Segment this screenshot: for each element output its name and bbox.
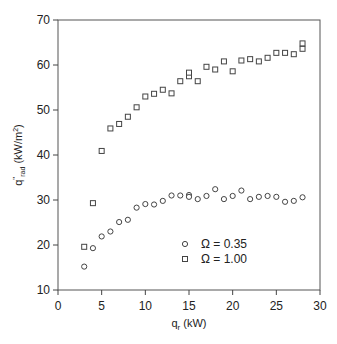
point-omega-100 — [99, 148, 104, 153]
legend-circle-marker — [182, 241, 187, 246]
point-omega-100 — [300, 46, 305, 51]
legend-label-omega-100: Ω = 1.00 — [201, 252, 247, 266]
point-omega-035 — [125, 217, 130, 222]
legend-item-omega-035: Ω = 0.35 — [182, 237, 247, 251]
data-points — [82, 41, 306, 269]
point-omega-035 — [151, 202, 156, 207]
point-omega-100 — [160, 87, 165, 92]
point-omega-100 — [265, 55, 270, 60]
point-omega-100 — [195, 79, 200, 84]
point-omega-035 — [108, 229, 113, 234]
legend-item-omega-100: Ω = 1.00 — [183, 252, 248, 266]
y-tick-label: 50 — [37, 103, 51, 117]
y-tick-label: 30 — [37, 193, 51, 207]
y-tick-label: 10 — [37, 283, 51, 297]
point-omega-100 — [213, 67, 218, 72]
point-omega-035 — [178, 193, 183, 198]
x-tick-label: 10 — [139, 299, 153, 313]
point-omega-100 — [283, 50, 288, 55]
point-omega-100 — [300, 41, 305, 46]
legend-square-marker — [183, 257, 188, 262]
point-omega-035 — [117, 219, 122, 224]
point-omega-100 — [125, 114, 130, 119]
point-omega-035 — [221, 197, 226, 202]
point-omega-100 — [82, 244, 87, 249]
y-tick-label: 70 — [37, 13, 51, 27]
point-omega-100 — [204, 64, 209, 69]
point-omega-035 — [82, 264, 87, 269]
y-axis: 10203040506070 — [37, 13, 58, 297]
point-omega-035 — [99, 234, 104, 239]
y-axis-label: q"rad (kW/m2) — [11, 124, 26, 186]
x-tick-label: 15 — [182, 299, 196, 313]
x-tick-label: 20 — [226, 299, 240, 313]
point-omega-100 — [248, 57, 253, 62]
point-omega-100 — [239, 58, 244, 63]
point-omega-100 — [134, 105, 139, 110]
point-omega-035 — [143, 201, 148, 206]
point-omega-100 — [221, 59, 226, 64]
point-omega-035 — [204, 193, 209, 198]
point-omega-100 — [187, 70, 192, 75]
x-axis-label: qr (kW) — [171, 317, 206, 332]
point-omega-100 — [108, 126, 113, 131]
legend: Ω = 0.35 Ω = 1.00 — [182, 237, 247, 266]
x-tick-label: 0 — [55, 299, 62, 313]
y-tick-label: 20 — [37, 238, 51, 252]
point-omega-035 — [169, 193, 174, 198]
x-tick-label: 5 — [98, 299, 105, 313]
plot-frame — [58, 20, 320, 290]
point-omega-035 — [213, 187, 218, 192]
point-omega-035 — [274, 194, 279, 199]
point-omega-035 — [291, 198, 296, 203]
point-omega-100 — [117, 121, 122, 126]
point-omega-100 — [230, 69, 235, 74]
point-omega-035 — [195, 197, 200, 202]
legend-label-omega-035: Ω = 0.35 — [201, 237, 247, 251]
point-omega-035 — [239, 188, 244, 193]
x-tick-label: 25 — [270, 299, 284, 313]
x-axis: 051015202530 — [55, 290, 327, 313]
point-omega-100 — [256, 59, 261, 64]
y-tick-label: 60 — [37, 58, 51, 72]
point-omega-100 — [152, 91, 157, 96]
point-omega-035 — [300, 195, 305, 200]
y-tick-label: 40 — [37, 148, 51, 162]
point-omega-100 — [169, 91, 174, 96]
point-omega-100 — [143, 94, 148, 99]
point-omega-035 — [265, 193, 270, 198]
point-omega-035 — [90, 246, 95, 251]
point-omega-100 — [291, 52, 296, 57]
x-tick-label: 30 — [313, 299, 327, 313]
point-omega-035 — [248, 197, 253, 202]
scatter-chart: 051015202530 10203040506070 qr (kW) q"ra… — [0, 0, 337, 344]
point-omega-035 — [160, 198, 165, 203]
point-omega-100 — [178, 79, 183, 84]
point-omega-035 — [230, 193, 235, 198]
point-omega-035 — [256, 194, 261, 199]
point-omega-100 — [90, 201, 95, 206]
point-omega-035 — [134, 205, 139, 210]
point-omega-100 — [274, 50, 279, 55]
point-omega-035 — [282, 199, 287, 204]
point-omega-035 — [186, 194, 191, 199]
